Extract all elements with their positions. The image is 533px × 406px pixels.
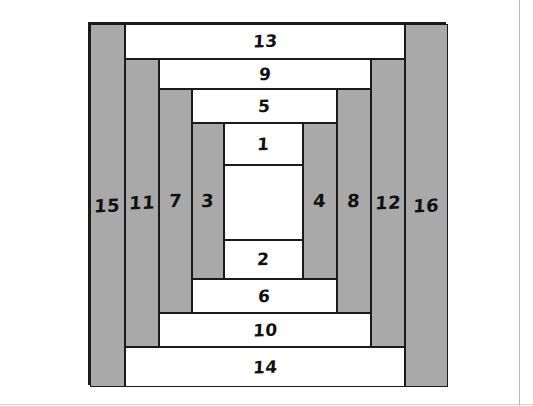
quilt-piece-8: 8 <box>337 89 371 313</box>
quilt-piece-7: 7 <box>159 89 192 313</box>
piece-number-label: 8 <box>347 192 361 210</box>
piece-number-label: 2 <box>257 251 270 268</box>
diagram-page: 12345678910111213141516 <box>0 0 533 406</box>
quilt-piece-4: 4 <box>303 123 337 279</box>
piece-number-label: 3 <box>201 192 215 210</box>
piece-number-label: 10 <box>252 321 278 339</box>
piece-number-label: 9 <box>258 65 271 82</box>
quilt-piece-10: 10 <box>159 313 371 347</box>
piece-number-label: 4 <box>313 192 327 210</box>
piece-number-label: 6 <box>258 287 271 304</box>
quilt-piece-center <box>224 165 303 240</box>
page-margin-rule <box>519 0 520 406</box>
quilt-piece-12: 12 <box>371 59 405 347</box>
page-bottom-rule <box>0 404 533 405</box>
piece-number-label: 11 <box>128 194 155 213</box>
quilt-piece-14: 14 <box>125 347 405 387</box>
piece-number-label: 15 <box>94 196 121 215</box>
quilt-piece-11: 11 <box>125 59 159 347</box>
quilt-piece-6: 6 <box>192 279 337 313</box>
log-cabin-block: 12345678910111213141516 <box>88 22 446 385</box>
quilt-piece-9: 9 <box>159 59 371 89</box>
quilt-piece-1: 1 <box>224 123 303 165</box>
piece-number-label: 14 <box>252 358 278 376</box>
piece-number-label: 16 <box>413 196 440 215</box>
piece-number-label: 7 <box>168 192 182 210</box>
piece-number-label: 12 <box>374 194 401 213</box>
quilt-piece-15: 15 <box>90 24 125 387</box>
quilt-piece-5: 5 <box>192 89 337 123</box>
quilt-piece-13: 13 <box>125 24 405 59</box>
quilt-piece-2: 2 <box>224 240 303 279</box>
quilt-piece-16: 16 <box>405 24 448 387</box>
piece-number-label: 13 <box>252 33 278 51</box>
piece-number-label: 1 <box>257 135 270 152</box>
piece-number-label: 5 <box>258 97 271 114</box>
quilt-piece-3: 3 <box>192 123 224 279</box>
